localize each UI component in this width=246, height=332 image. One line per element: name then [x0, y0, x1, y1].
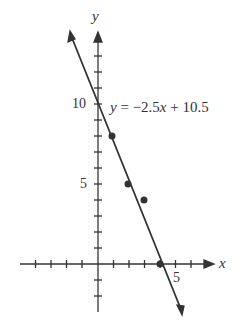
equation-annotation: y = −2.5x + 10.5 — [110, 100, 209, 114]
y-tick-label-5: 5 — [80, 177, 87, 191]
fit-line — [70, 33, 182, 312]
y-tick-label-10: 10 — [72, 97, 86, 111]
chart-canvas — [0, 0, 246, 332]
x-axis-arrow-icon — [204, 260, 214, 268]
equation-part-1: = −2.5 — [117, 99, 160, 115]
equation-x: x — [160, 99, 167, 115]
line-arrow-top-icon — [68, 31, 75, 42]
x-tick-label-5: 5 — [173, 271, 180, 285]
x-axis-label: x — [219, 256, 226, 270]
equation-part-2: + 10.5 — [167, 99, 209, 115]
equation-y: y — [110, 99, 117, 115]
data-point — [125, 181, 132, 188]
data-point — [109, 133, 116, 140]
y-axis-label: y — [92, 9, 99, 23]
line-arrow-bottom-icon — [177, 305, 184, 315]
data-point — [157, 261, 164, 268]
y-axis-arrow-icon — [94, 32, 102, 42]
data-point — [141, 197, 148, 204]
